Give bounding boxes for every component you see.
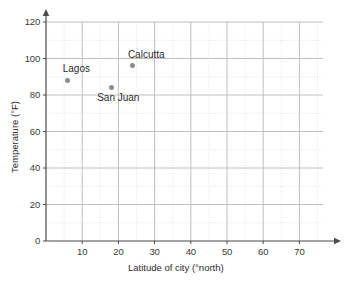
scatter-chart: 020406080100120 10203040506070 Temperatu… [0, 0, 344, 282]
axis-lines [43, 9, 341, 244]
y-axis-title: Temperature (°F) [9, 101, 20, 173]
x-tick-label-60: 60 [248, 246, 278, 257]
x-tick-label-30: 30 [140, 246, 170, 257]
y-tick-label-0: 0 [10, 235, 40, 246]
y-tick-label-120: 120 [10, 16, 40, 27]
data-label-lagos: Lagos [63, 63, 90, 74]
axis-tick-marks [43, 22, 299, 244]
y-tick-label-80: 80 [10, 89, 40, 100]
data-label-san-juan: San Juan [97, 92, 139, 103]
chart-canvas [0, 0, 344, 282]
x-axis-title: Latitude of city (°north) [128, 262, 224, 273]
x-tick-label-10: 10 [67, 246, 97, 257]
data-label-calcutta: Calcutta [128, 49, 165, 60]
major-gridlines [46, 22, 323, 241]
data-point-san-juan[interactable] [109, 85, 114, 90]
x-tick-label-70: 70 [284, 246, 314, 257]
x-tick-label-20: 20 [103, 246, 133, 257]
y-tick-label-20: 20 [10, 199, 40, 210]
x-tick-label-40: 40 [176, 246, 206, 257]
x-tick-label-50: 50 [212, 246, 242, 257]
y-tick-label-100: 100 [10, 53, 40, 64]
